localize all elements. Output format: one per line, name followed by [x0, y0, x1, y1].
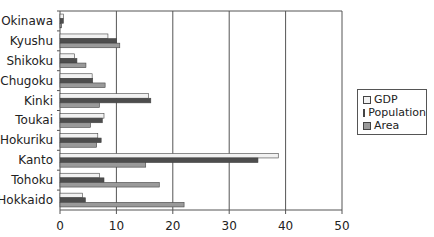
- x-tick-label: 10: [109, 219, 124, 233]
- category-label: Kanto: [18, 153, 53, 167]
- legend: GDP Population Area: [357, 89, 427, 135]
- bar-gdp: [60, 54, 75, 59]
- legend-label: GDP: [374, 93, 398, 106]
- x-tick-label: 30: [222, 219, 237, 233]
- legend-label: Population: [368, 106, 426, 119]
- bar-area: [60, 123, 90, 128]
- bar-population: [60, 118, 102, 123]
- legend-item-gdp: GDP: [363, 93, 426, 106]
- bar-population: [60, 138, 101, 143]
- bar-area: [60, 143, 97, 148]
- bar-population: [60, 178, 104, 183]
- bar-gdp: [60, 193, 83, 198]
- bar-population: [60, 98, 151, 103]
- bar-population: [60, 58, 77, 63]
- bar-population: [60, 198, 85, 203]
- bar-gdp: [60, 14, 63, 19]
- category-label: Kyushu: [10, 34, 53, 48]
- bar-gdp: [60, 133, 98, 138]
- legend-swatch-area: [363, 122, 371, 130]
- bar-population: [60, 158, 258, 163]
- x-tick-label: 50: [334, 219, 349, 233]
- legend-label: Area: [374, 119, 399, 132]
- bar-area: [60, 182, 159, 187]
- x-tick-label: 40: [278, 219, 293, 233]
- category-label: Hokkaido: [0, 193, 53, 207]
- bar-area: [60, 163, 146, 168]
- bar-gdp: [60, 74, 92, 79]
- bar-gdp: [60, 153, 278, 158]
- category-label: Hokuriku: [0, 133, 53, 147]
- bar-gdp: [60, 94, 149, 99]
- bar-area: [60, 202, 184, 207]
- legend-item-area: Area: [363, 119, 426, 132]
- bar-area: [60, 83, 105, 88]
- category-label: Okinawa: [1, 14, 53, 28]
- category-label: Kinki: [24, 94, 53, 108]
- legend-swatch-population: [363, 109, 365, 117]
- x-tick-label: 0: [56, 219, 64, 233]
- bar-population: [60, 19, 63, 24]
- bar-gdp: [60, 173, 99, 178]
- bar-area: [60, 43, 120, 48]
- bar-population: [60, 78, 93, 83]
- category-label: Toukai: [14, 113, 53, 127]
- bar-gdp: [60, 114, 104, 119]
- bar-area: [60, 63, 86, 68]
- bar-population: [60, 39, 116, 44]
- legend-item-population: Population: [363, 106, 426, 119]
- category-label: Chugoku: [0, 74, 53, 88]
- category-label: Shikoku: [6, 54, 53, 68]
- x-tick-label: 20: [165, 219, 180, 233]
- bar-gdp: [60, 34, 108, 39]
- bar-area: [60, 103, 99, 108]
- bar-area: [60, 23, 62, 28]
- legend-swatch-gdp: [363, 96, 371, 104]
- category-label: Tohoku: [10, 173, 53, 187]
